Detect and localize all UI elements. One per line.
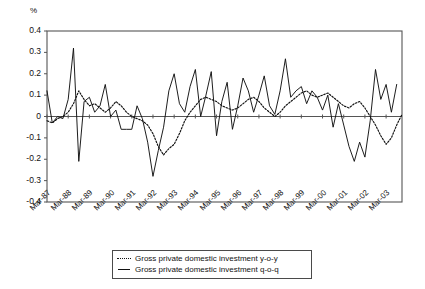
- legend-item-yoy: Gross private domestic investment y-o-y: [117, 253, 307, 264]
- chart-container: % 0.40.30.20.10-0.1-0.2-0.3-0.4 Mar-87Ma…: [0, 0, 425, 289]
- legend-item-qoq: Gross private domestic investment q-o-q: [117, 264, 307, 275]
- plot-area: [0, 0, 425, 289]
- legend-label-yoy: Gross private domestic investment y-o-y: [135, 254, 278, 263]
- legend-solid-line-icon: [117, 265, 131, 274]
- legend-dotted-line-icon: [117, 254, 131, 263]
- legend-label-qoq: Gross private domestic investment q-o-q: [135, 265, 279, 274]
- chart-legend: Gross private domestic investment y-o-y …: [112, 250, 312, 279]
- series-lines: [47, 48, 402, 176]
